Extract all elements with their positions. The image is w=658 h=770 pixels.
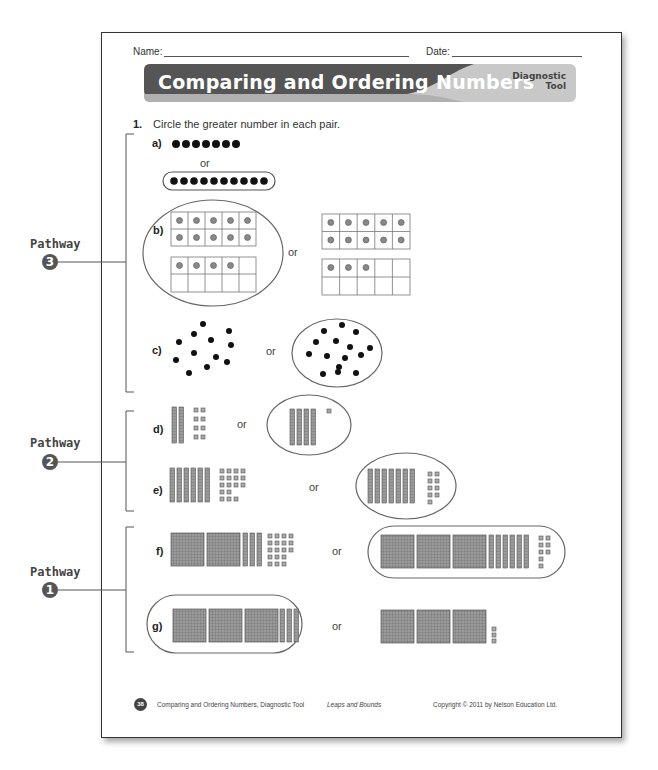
item-f-left-blocks [171,533,293,566]
pathway-3-badge: 3 [42,254,58,270]
item-e-right-blocks [368,469,439,504]
pathway-2-label: Pathway [30,436,81,450]
item-c-right-dots [306,322,373,377]
item-f-label: f) [156,545,163,557]
or-label-a: or [200,157,210,169]
item-c-label: c) [152,344,162,356]
pathway-3-label: Pathway [30,237,81,251]
pathway-1-badge: 1 [42,582,58,598]
item-g-label: g) [152,620,162,632]
item-b-label: b) [153,224,163,236]
question-figures [0,0,658,770]
item-a-left-dots [172,140,240,148]
pathway-2-badge: 2 [42,454,58,470]
item-a-right-dots [163,172,275,190]
item-g-left-blocks [173,609,299,642]
pathway-1-label: Pathway [30,565,81,579]
item-d-right-blocks [290,409,331,445]
item-b-right-frames [322,214,410,295]
item-e-left-blocks [170,468,245,502]
footer-copyright: Copyright © 2011 by Nelson Education Ltd… [433,701,557,708]
item-b-left-frames [171,212,256,292]
or-label-f: or [332,545,342,557]
or-label-b: or [288,246,298,258]
footer-title: Comparing and Ordering Numbers, Diagnost… [157,701,304,708]
item-a-label: a) [152,137,162,149]
page-number-badge: 38 [134,698,147,711]
footer-series: Leaps and Bounds [327,701,381,708]
item-g-right-blocks [381,610,496,643]
or-label-g: or [332,620,342,632]
item-d-left-blocks [172,407,205,443]
or-label-e: or [309,481,319,493]
item-e-label: e) [153,484,163,496]
or-label-d: or [237,418,247,430]
or-label-c: or [266,345,276,357]
item-c-left-dots [173,321,234,376]
item-f-right-blocks [381,535,550,568]
item-d-label: d) [153,423,163,435]
